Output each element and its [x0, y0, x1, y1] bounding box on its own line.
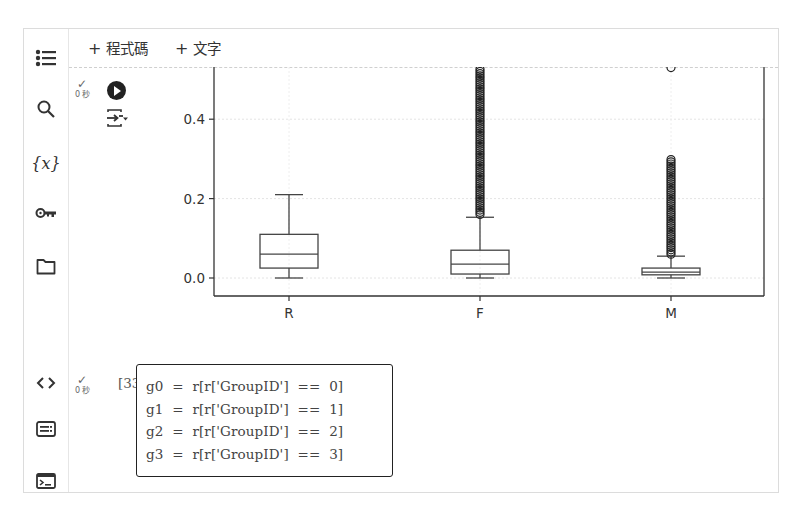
run-cell-button[interactable] [107, 81, 126, 100]
sidebar-item-secrets[interactable] [32, 199, 60, 227]
add-code-button[interactable]: +程式碼 [88, 37, 148, 58]
sidebar-item-variables[interactable]: {x} [32, 149, 60, 177]
y-tick-label: 0.0 [184, 270, 205, 286]
code-editor[interactable]: g0 = r[r['GroupID'] == 0] g1 = r[r['Grou… [136, 364, 393, 477]
sidebar-item-terminal[interactable] [32, 467, 60, 495]
boxplot-chart: 0.00.20.4RFM [174, 67, 780, 327]
sidebar-item-table-of-contents[interactable] [32, 44, 60, 72]
sidebar-item-command-palette[interactable] [32, 415, 60, 443]
check-icon: ✓ [68, 79, 96, 90]
box-M [642, 67, 700, 278]
cell-status-2: ✓ 0 秒 [68, 375, 96, 395]
y-tick-label: 0.2 [184, 191, 205, 207]
notebook-toolbar: +程式碼 +文字 [69, 29, 778, 68]
code-icon [36, 376, 56, 390]
box-F [451, 67, 509, 278]
key-icon [35, 206, 57, 220]
add-text-button[interactable]: +文字 [175, 37, 221, 58]
code-line: g2 = r[r['GroupID'] == 2] [146, 420, 392, 443]
sidebar-item-files[interactable] [32, 252, 60, 280]
sidebar-item-code-snippets[interactable] [32, 369, 60, 397]
exec-time: 0 秒 [68, 90, 96, 99]
x-tick-label: R [284, 305, 293, 321]
check-icon: ✓ [68, 375, 96, 386]
code-line: g0 = r[r['GroupID'] == 0] [146, 375, 392, 398]
variables-icon: {x} [31, 154, 60, 173]
y-tick-label: 0.4 [184, 111, 205, 127]
code-line: g3 = r[r['GroupID'] == 3] [146, 443, 392, 466]
code-line: g1 = r[r['GroupID'] == 1] [146, 398, 392, 421]
x-tick-label: M [665, 305, 677, 321]
exec-time: 0 秒 [68, 386, 96, 395]
left-sidebar: {x} [24, 29, 69, 492]
list-icon [35, 49, 57, 67]
search-icon [36, 99, 56, 119]
folder-icon [36, 258, 56, 275]
terminal-icon [36, 473, 56, 489]
command-palette-icon [36, 421, 56, 437]
sidebar-item-search[interactable] [32, 95, 60, 123]
x-tick-label: F [476, 305, 484, 321]
notebook-frame: {x} [23, 28, 779, 493]
output-actions-button[interactable] [105, 108, 129, 132]
cell-status: ✓ 0 秒 [68, 79, 96, 99]
output-toggle-icon [105, 108, 129, 128]
